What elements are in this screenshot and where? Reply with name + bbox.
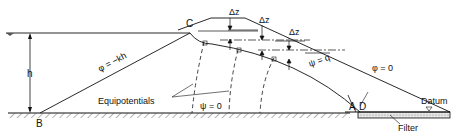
height-label: h xyxy=(27,68,33,79)
seepage-diagram: h Δz Δz Δz xyxy=(0,0,456,137)
phi-zero-label: φ = 0 xyxy=(372,63,393,73)
point-b-label: B xyxy=(36,118,43,129)
datum-icon xyxy=(426,107,432,111)
height-dimension: h xyxy=(27,33,33,113)
equipotentials-label: Equipotentials xyxy=(98,96,155,106)
point-a-label: A xyxy=(349,101,356,112)
point-c-label: C xyxy=(186,18,193,29)
delta-z-label-1: Δz xyxy=(229,7,240,17)
water-level-icon xyxy=(6,33,14,36)
phi-upstream-label: φ = −kh xyxy=(96,50,128,73)
psi-top-label: ψ = q xyxy=(307,52,331,69)
filter-label: Filter xyxy=(398,123,418,133)
psi-zero-label: ψ = 0 xyxy=(200,101,222,111)
filter-layer xyxy=(345,112,450,118)
equipotentials-leaders xyxy=(172,84,229,97)
delta-z-label-3: Δz xyxy=(289,27,300,37)
delta-z-label-2: Δz xyxy=(259,15,270,25)
ground xyxy=(8,113,350,118)
datum-label: Datum xyxy=(421,96,448,106)
point-d-label: D xyxy=(359,101,366,112)
upstream-water-surface xyxy=(6,33,190,36)
